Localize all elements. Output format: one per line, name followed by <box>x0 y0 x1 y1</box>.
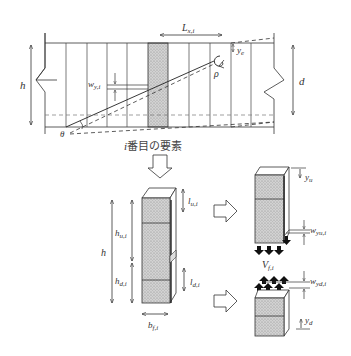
lower-part-block: wyd,i yd <box>254 271 326 336</box>
down-arrow-icon <box>148 155 172 178</box>
upper-part-block: yu wyu,i <box>254 167 326 255</box>
element-block: h hu,i hd,i lu,i ld,i bf,i <box>101 188 200 332</box>
left-break-line <box>36 33 57 80</box>
theta-label: θ <box>60 129 65 139</box>
yd-label: yd <box>304 315 313 327</box>
Vfi-label: Vf,i <box>262 259 274 272</box>
right-break-line <box>264 33 284 134</box>
element-h-label: h <box>101 247 106 258</box>
wyi-label: wy,i <box>88 79 100 91</box>
ye-label: ye <box>236 45 244 57</box>
ldi-label: ld,i <box>190 277 200 289</box>
Lxi-label: Lx,i <box>181 22 194 35</box>
bfi-label: bf,i <box>148 320 158 332</box>
theta-arc <box>80 121 83 129</box>
yu-label: yu <box>304 172 313 184</box>
lui-label: lu,i <box>188 196 198 208</box>
beam-view: θ ρ ye wy,i Lx,i h d <box>20 22 305 139</box>
rho-label: ρ <box>213 68 219 79</box>
crack-line <box>66 61 214 127</box>
h-label: h <box>20 79 26 91</box>
element-caption: i番目の要素 <box>124 140 182 153</box>
beam-element-diagram: θ ρ ye wy,i Lx,i h d i番目の要素 <box>0 0 351 356</box>
hdi-label: hd,i <box>115 276 127 288</box>
ith-element-column <box>148 43 168 127</box>
upward-force-arrows <box>254 276 289 291</box>
rho-rotation-icon <box>214 56 222 66</box>
right-arrow-icon <box>214 200 237 222</box>
wyui-label: wyu,i <box>310 225 326 237</box>
right-arrow-icon <box>214 290 237 312</box>
d-label: d <box>299 75 305 87</box>
hui-label: hu,i <box>115 228 127 240</box>
wydi-label: wyd,i <box>310 276 326 288</box>
